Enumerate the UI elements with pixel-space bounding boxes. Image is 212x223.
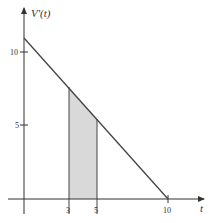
x-tick-label-5: 5	[94, 206, 98, 215]
y-axis-label: V'(t)	[31, 7, 51, 20]
x-tick-label-10: 10	[163, 206, 171, 215]
x-tick-label-3: 3	[66, 206, 70, 215]
y-tick-label-5: 5	[15, 121, 19, 130]
chart: V'(t) 10 5 3 5 10 t	[0, 0, 212, 223]
x-axis-label: t	[200, 202, 204, 214]
y-tick-label-10: 10	[10, 48, 18, 57]
